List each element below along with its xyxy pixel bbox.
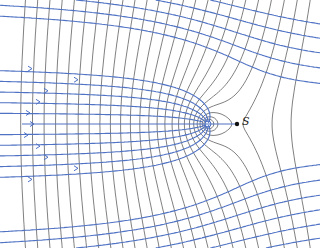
stagnation-point <box>235 122 239 126</box>
flow-net-diagram <box>0 0 320 248</box>
stagnation-label: S <box>242 115 250 128</box>
